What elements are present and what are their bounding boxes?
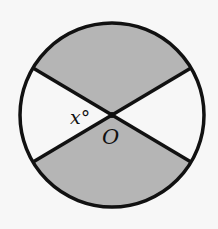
center-point: [109, 112, 115, 118]
center-label: O: [102, 125, 119, 149]
angle-label: x°: [70, 106, 90, 128]
circle-diagram: x° O: [0, 0, 218, 229]
top-shaded-sector: [33, 23, 191, 115]
